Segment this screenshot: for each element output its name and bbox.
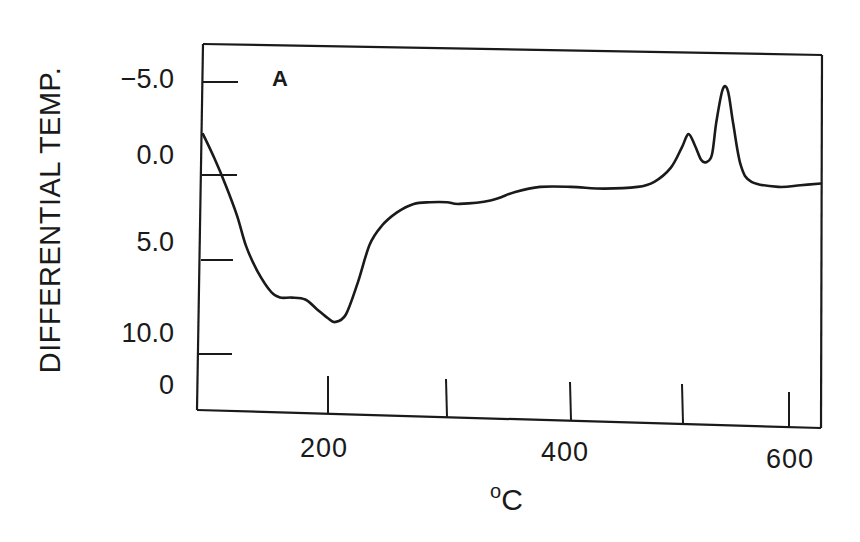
panel-label: A xyxy=(272,66,288,92)
right-axis xyxy=(821,55,822,428)
y-axis-label: DIFFERENTIAL TEMP. xyxy=(34,67,67,374)
x-tick-300 xyxy=(446,379,447,417)
x-axis-label: oC xyxy=(490,480,523,517)
x-tick-label-600: 600 xyxy=(740,444,840,475)
x-axis-unit: C xyxy=(501,483,523,516)
top-axis xyxy=(203,44,822,55)
bottom-axis xyxy=(197,410,821,428)
y-tick-label-bottom-0: 0 xyxy=(84,370,174,401)
x-tick-500 xyxy=(682,384,683,423)
y-tick-label-5: 5.0 xyxy=(84,227,174,258)
dta-curve-a xyxy=(203,86,821,322)
left-axis xyxy=(197,44,203,410)
x-tick-label-400: 400 xyxy=(515,437,615,468)
plot-frame xyxy=(197,44,822,428)
x-tick-400 xyxy=(570,382,571,420)
y-tick-label-0: 0.0 xyxy=(84,140,174,171)
y-ticks xyxy=(199,82,238,354)
x-tick-label-200: 200 xyxy=(274,433,374,464)
y-tick-label-10: 10.0 xyxy=(84,318,174,349)
degree-symbol: o xyxy=(490,480,501,502)
y-tick-label-neg5: −5.0 xyxy=(84,64,174,95)
y-axis-label-container: DIFFERENTIAL TEMP. xyxy=(30,40,70,400)
